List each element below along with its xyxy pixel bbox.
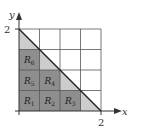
x-tick-label: 2 <box>98 117 104 128</box>
y-tick-label: 2 <box>4 24 10 35</box>
riemann-region-diagram: y 2 x 2 R1 R2 R3 R4 R5 R6 <box>0 0 142 130</box>
y-axis-arrow-icon <box>16 12 22 20</box>
y-axis-label: y <box>8 9 15 20</box>
x-axis-arrow-icon <box>114 108 122 114</box>
x-axis-label: x <box>122 106 128 117</box>
